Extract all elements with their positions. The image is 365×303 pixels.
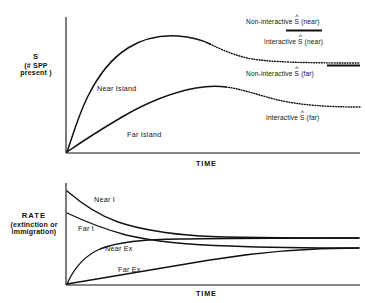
legend-suffix-non-interactive-near: (near) <box>301 18 320 25</box>
legend-symbol-s-hat-near-interactive: ^S <box>298 38 303 45</box>
figure-root: S (# SPP present ) Near Island Far Islan… <box>0 0 365 303</box>
curve-far-immigration <box>67 213 359 248</box>
upper-x-axis-label: TIME <box>196 160 217 168</box>
legend-suffix-non-interactive-far: (far) <box>301 70 314 77</box>
legend-prefix-non-interactive-far: Non-interactive <box>246 70 293 77</box>
legend-label-interactive-near: Interactive ^S (near) <box>264 38 323 45</box>
lower-y-axis-label-main: RATE <box>4 212 64 221</box>
curve-label-far-immigration: Far I <box>78 225 94 233</box>
lower-x-axis-label: TIME <box>196 290 217 298</box>
legend-label-non-interactive-near: Non-interactive ^S (near) <box>246 18 320 25</box>
legend-prefix-interactive-far: Interactive <box>266 114 298 121</box>
legend-suffix-interactive-near: (near) <box>305 38 324 45</box>
legend-label-interactive-far: Interactive ^S (far) <box>266 114 319 121</box>
curve-label-near-island: Near Island <box>97 85 137 93</box>
lower-y-axis-label: RATE (extinction or immigration) <box>4 212 64 236</box>
hat-accent: ^ <box>301 109 304 116</box>
upper-panel-legend-bars <box>286 31 360 66</box>
curve-label-near-immigration: Near I <box>94 196 115 204</box>
hat-accent: ^ <box>295 13 298 20</box>
hat-accent: ^ <box>299 33 302 40</box>
upper-panel-curves <box>67 36 360 152</box>
upper-y-axis-label-sub2: present ) <box>20 69 51 76</box>
figure-canvas <box>0 0 365 303</box>
lower-y-axis-label-sub1: (extinction or <box>10 221 57 228</box>
curve-far-island-dotted <box>226 87 360 107</box>
lower-panel-curves <box>67 191 359 284</box>
lower-y-axis-label-sub2: immigration) <box>12 228 57 235</box>
legend-symbol-s-hat-near-noninteractive: ^S <box>295 18 300 25</box>
curve-label-far-island: Far Island <box>127 131 161 139</box>
hat-accent: ^ <box>295 65 298 72</box>
curve-label-near-extinction: Near Ex <box>105 245 133 253</box>
curve-label-far-extinction: Far Ex <box>118 266 141 274</box>
curve-far-island-solid <box>67 86 226 152</box>
legend-suffix-interactive-far: (far) <box>307 114 320 121</box>
legend-prefix-non-interactive-near: Non-interactive <box>246 18 293 25</box>
upper-y-axis-label-main: S <box>10 53 62 62</box>
curve-far-extinction <box>67 248 359 284</box>
legend-prefix-interactive-near: Interactive <box>264 38 296 45</box>
legend-symbol-s-hat-far-interactive: ^S <box>300 114 305 121</box>
upper-y-axis-label: S (# SPP present ) <box>10 53 62 77</box>
upper-y-axis-label-sub1: (# SPP <box>24 62 47 69</box>
legend-label-non-interactive-far: Non-interactive ^S (far) <box>246 70 314 77</box>
legend-symbol-s-hat-far-noninteractive: ^S <box>295 70 300 77</box>
curve-near-island-dotted <box>210 44 360 63</box>
